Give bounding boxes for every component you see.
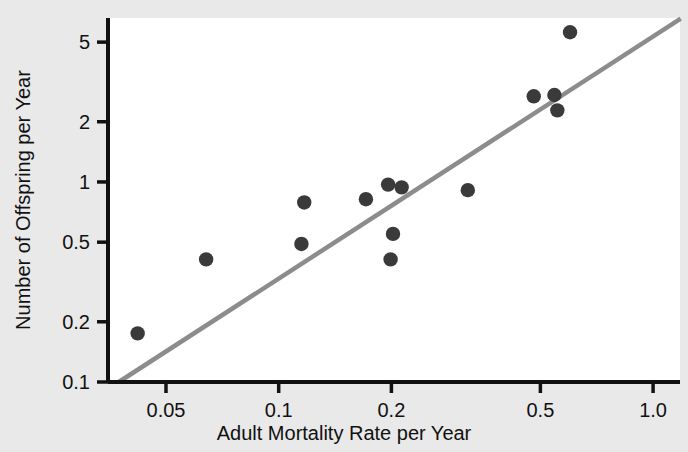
data-point: [550, 103, 564, 117]
data-point: [394, 180, 408, 194]
data-point: [527, 89, 541, 103]
x-tick-label: 1.0: [639, 399, 667, 421]
y-tick-label: 2: [79, 111, 90, 133]
y-tick-label: 0.1: [62, 371, 90, 393]
data-point: [461, 183, 475, 197]
data-point: [294, 237, 308, 251]
data-point: [381, 177, 395, 191]
data-point: [386, 227, 400, 241]
scatter-plot: 0.050.10.20.51.0 5210.50.20.1 Adult Mort…: [0, 0, 688, 452]
data-point: [297, 195, 311, 209]
x-tick-label: 0.1: [265, 399, 293, 421]
x-tick-label: 0.2: [377, 399, 405, 421]
data-point: [130, 326, 144, 340]
y-tick-label: 5: [79, 31, 90, 53]
data-point: [383, 252, 397, 266]
x-tick-label: 0.5: [526, 399, 554, 421]
y-tick-label: 0.2: [62, 311, 90, 333]
y-axis-title: Number of Offspring per Year: [12, 70, 34, 330]
data-point: [547, 88, 561, 102]
y-tick-label: 0.5: [62, 231, 90, 253]
y-tick-label: 1: [79, 171, 90, 193]
x-tick-label: 0.05: [147, 399, 186, 421]
data-point: [199, 252, 213, 266]
data-point: [359, 192, 373, 206]
x-axis-title: Adult Mortality Rate per Year: [217, 422, 472, 444]
figure-container: 0.050.10.20.51.0 5210.50.20.1 Adult Mort…: [0, 0, 688, 452]
data-point: [563, 25, 577, 39]
